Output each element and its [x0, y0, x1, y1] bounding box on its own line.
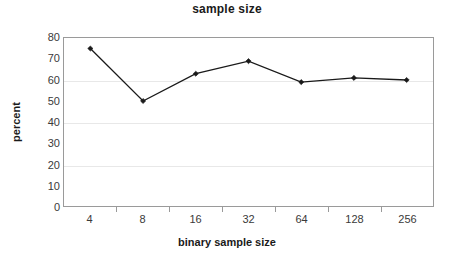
x-axis-tick-mark — [222, 207, 223, 212]
y-axis-tick-label: 30 — [32, 138, 60, 149]
x-axis-tick-mark — [328, 207, 329, 212]
x-axis-title: binary sample size — [0, 236, 454, 248]
y-axis-tick-label: 70 — [32, 53, 60, 64]
x-axis-tick-label: 32 — [242, 212, 254, 226]
y-axis-title-text: percent — [10, 102, 22, 142]
y-axis-tick-labels: 80706050403020100 — [28, 0, 60, 264]
plot-area — [63, 37, 434, 207]
x-axis-tick-label: 128 — [345, 212, 363, 226]
y-axis-tick-label: 40 — [32, 117, 60, 128]
y-axis-title: percent — [8, 37, 24, 207]
line-chart: sample size percent 80706050403020100 48… — [0, 0, 454, 264]
y-axis-tick-label: 50 — [32, 95, 60, 106]
data-point-marker — [299, 80, 304, 85]
x-axis-tick-mark — [275, 207, 276, 212]
y-axis-tick-label: 20 — [32, 159, 60, 170]
x-axis-tick-label: 4 — [86, 212, 92, 226]
x-axis-tick-label: 64 — [295, 212, 307, 226]
x-axis-tick-mark — [169, 207, 170, 212]
chart-title: sample size — [0, 2, 454, 16]
data-point-marker — [193, 71, 198, 76]
y-axis-tick-label: 10 — [32, 180, 60, 191]
x-axis-tick-mark — [116, 207, 117, 212]
data-point-marker — [351, 75, 356, 80]
x-axis-tick-label: 16 — [189, 212, 201, 226]
data-series-layer — [64, 38, 433, 206]
series-line — [90, 49, 406, 101]
y-axis-tick-label: 80 — [32, 32, 60, 43]
x-axis-tick-mark — [381, 207, 382, 212]
x-axis-tick-label: 256 — [398, 212, 416, 226]
data-point-marker — [246, 59, 251, 64]
data-point-marker — [404, 77, 409, 82]
y-axis-tick-label: 0 — [32, 202, 60, 213]
x-axis-tick-label: 8 — [139, 212, 145, 226]
y-axis-tick-label: 60 — [32, 74, 60, 85]
